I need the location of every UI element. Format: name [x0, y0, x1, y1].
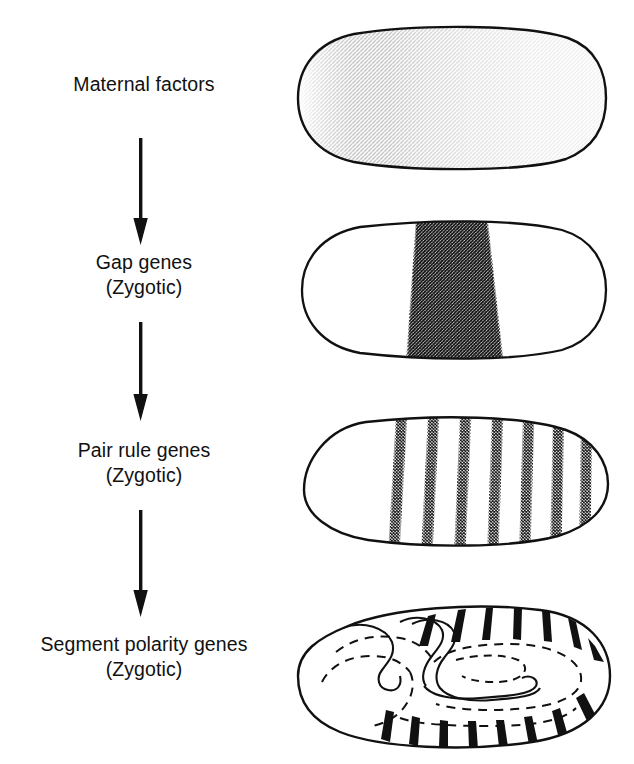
stage-label-pair-rule: Pair rule genes (Zygotic) — [34, 438, 254, 488]
stage-label-main: Maternal factors — [73, 73, 214, 95]
stage-label-sub: (Zygotic) — [34, 463, 254, 488]
stripe — [513, 608, 522, 640]
embryo-maternal-gradient — [296, 22, 608, 174]
stripe — [579, 414, 592, 554]
arrow-gap-to-pair-rule — [128, 322, 154, 422]
arrow-down-icon — [128, 510, 154, 618]
embryo-segment-polarity-svg — [296, 600, 614, 752]
stage-label-gap: Gap genes (Zygotic) — [44, 250, 244, 300]
stage-label-main: Segment polarity genes — [40, 633, 247, 655]
embryo-gap-band — [300, 218, 608, 362]
embryo-pair-rule-stripes — [300, 414, 610, 554]
arrow-down-icon — [128, 322, 154, 422]
embryo-gap-svg — [300, 218, 608, 362]
embryo-pair-rule-svg — [300, 414, 610, 554]
arrow-pair-rule-to-segment-polarity — [128, 510, 154, 618]
embryo-segment-polarity — [296, 600, 614, 752]
embryo-stipple-fill — [296, 22, 608, 174]
gap-expression-band — [406, 218, 504, 362]
arrow-maternal-to-gap — [128, 138, 154, 246]
figure-canvas: Maternal factors — [0, 0, 634, 764]
stage-label-sub: (Zygotic) — [8, 657, 280, 682]
arrow-down-icon — [128, 138, 154, 246]
stripe — [439, 720, 448, 748]
stage-label-main: Pair rule genes — [78, 439, 211, 461]
embryo-maternal-svg — [296, 22, 608, 174]
stage-label-sub: (Zygotic) — [44, 275, 244, 300]
stage-label-maternal: Maternal factors — [34, 72, 254, 97]
stage-label-main: Gap genes — [96, 251, 192, 273]
stage-label-segment-polarity: Segment polarity genes (Zygotic) — [8, 632, 280, 682]
